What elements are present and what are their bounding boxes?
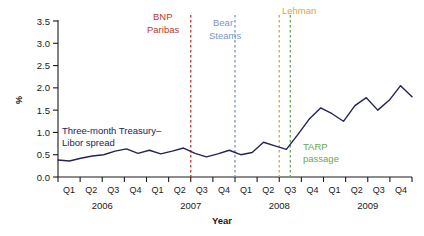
year-label: 2007 [180, 200, 201, 211]
y-tick-label: 3.0 [37, 38, 50, 49]
x-axis-title: Year [212, 215, 232, 226]
y-tick-labels: 0.00.51.01.52.02.53.03.5 [37, 16, 50, 183]
quarter-label: Q4 [129, 185, 141, 195]
quarter-label: Q1 [240, 185, 252, 195]
quarter-label: Q4 [306, 185, 318, 195]
annotation-tarp-line1: TARP [303, 141, 328, 152]
y-tick-label: 0.0 [37, 172, 50, 183]
annotation-bnp-paribas-line1: BNP [153, 11, 173, 22]
quarter-label: Q1 [152, 185, 164, 195]
year-label: 2008 [269, 200, 290, 211]
annotation-bnp-paribas-line2: Paribas [147, 24, 179, 35]
chart-container: % Q1Q2Q3Q4Q1Q2Q3Q4Q1Q2Q3Q4Q1Q2Q3Q4 0.00.… [0, 0, 424, 236]
x-axis-ticks [58, 177, 412, 182]
y-tick-label: 0.5 [37, 149, 50, 160]
quarter-label: Q3 [107, 185, 119, 195]
line-chart-plot: Q1Q2Q3Q4Q1Q2Q3Q4Q1Q2Q3Q4Q1Q2Q3Q4 0.00.51… [0, 0, 424, 236]
quarter-label: Q3 [373, 185, 385, 195]
quarter-label: Q2 [85, 185, 97, 195]
annotation-lehman: Lehman [282, 5, 316, 16]
quarter-label: Q1 [329, 185, 341, 195]
year-labels: 2006200720082009 [92, 200, 379, 211]
quarter-label: Q2 [262, 185, 274, 195]
year-label: 2006 [92, 200, 113, 211]
annotation-bear-stearns-line1: Bear [213, 17, 233, 28]
quarter-label: Q2 [351, 185, 363, 195]
y-tick-label: 1.5 [37, 105, 50, 116]
series-inline-label-line1: Three-month Treasury– [62, 125, 162, 136]
quarter-label: Q3 [284, 185, 296, 195]
annotation-bear-stearns-line2: Steams [209, 30, 241, 41]
y-tick-label: 3.5 [37, 16, 50, 27]
quarter-tick-labels: Q1Q2Q3Q4Q1Q2Q3Q4Q1Q2Q3Q4Q1Q2Q3Q4 [63, 185, 407, 195]
quarter-label: Q4 [395, 185, 407, 195]
quarter-label: Q4 [218, 185, 230, 195]
quarter-label: Q1 [63, 185, 75, 195]
y-tick-label: 2.0 [37, 82, 50, 93]
year-label: 2009 [357, 200, 378, 211]
quarter-label: Q3 [196, 185, 208, 195]
y-axis-ticks [53, 21, 58, 177]
quarter-label: Q2 [174, 185, 186, 195]
annotation-tarp-line2: passage [303, 153, 339, 164]
y-tick-label: 2.5 [37, 60, 50, 71]
series-inline-label-line2: Libor spread [62, 137, 115, 148]
y-tick-label: 1.0 [37, 127, 50, 138]
